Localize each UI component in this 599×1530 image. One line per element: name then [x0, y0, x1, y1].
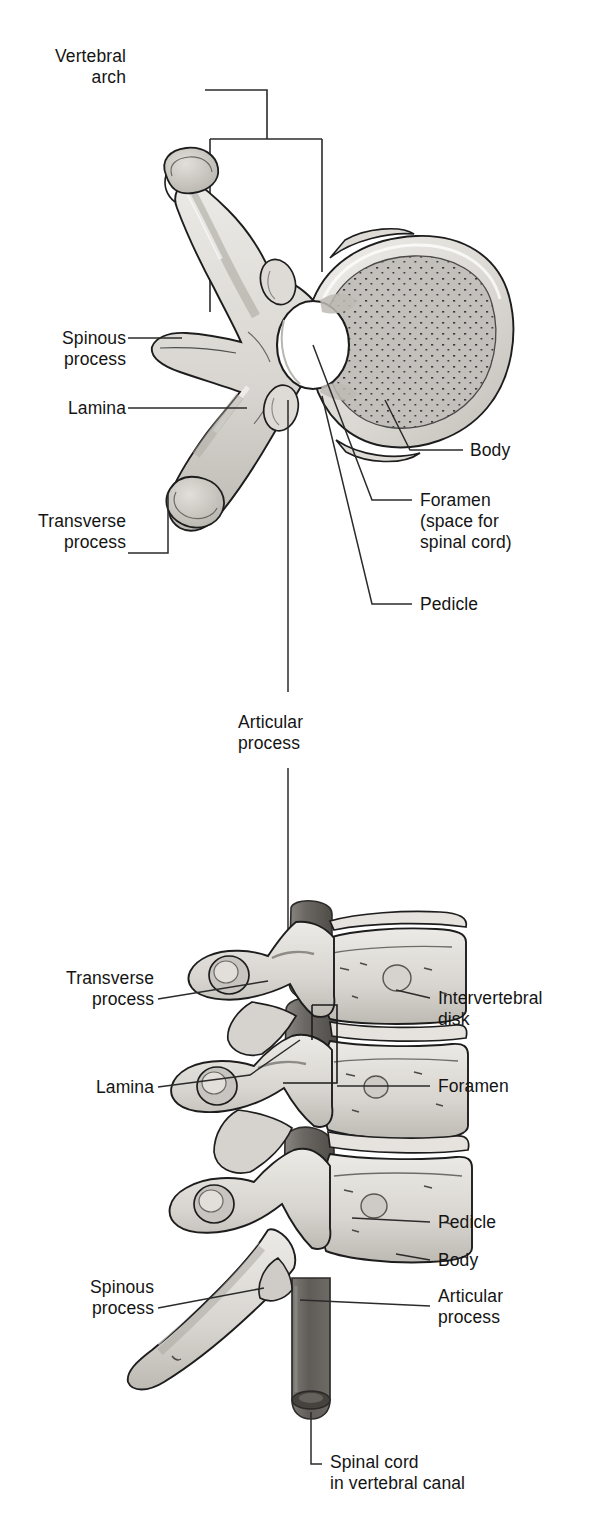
- label-intervertebral-disk: Intervertebral disk: [438, 988, 598, 1030]
- label-vertebral-arch: Vertebral arch: [0, 46, 126, 88]
- figure-canvas: Vertebral arch Spinous process Lamina Tr…: [0, 0, 599, 1530]
- label-articular-process-mid: Articular process: [238, 712, 378, 754]
- label-foramen-top: Foramen (space for spinal cord): [420, 490, 598, 553]
- label-lamina-top: Lamina: [0, 398, 126, 419]
- leader-transverse-process-top: [128, 494, 168, 553]
- label-transverse-process-top: Transverse process: [0, 511, 126, 553]
- label-transverse-process-bottom: Transverse process: [0, 968, 154, 1010]
- label-spinous-process-top: Spinous process: [0, 328, 126, 370]
- intervertebral-disk-1: [330, 911, 466, 930]
- vertebral-body-lateral-3: [323, 1154, 472, 1262]
- label-foramen-bottom: Foramen: [438, 1076, 598, 1097]
- label-spinous-process-bottom: Spinous process: [0, 1277, 154, 1319]
- label-lamina-bottom: Lamina: [0, 1077, 154, 1098]
- label-pedicle-top: Pedicle: [420, 594, 570, 615]
- label-articular-process-bottom: Articular process: [438, 1286, 598, 1328]
- transverse-process-tip: [166, 477, 224, 528]
- vertebral-arch-lateral-1: [189, 922, 335, 1017]
- bottom-panel-lateral-view: [128, 901, 472, 1464]
- label-body-bottom: Body: [438, 1250, 598, 1271]
- label-body-top: Body: [470, 440, 598, 461]
- label-spinal-cord: Spinal cord in vertebral canal: [330, 1452, 598, 1494]
- label-pedicle-bottom: Pedicle: [438, 1212, 598, 1233]
